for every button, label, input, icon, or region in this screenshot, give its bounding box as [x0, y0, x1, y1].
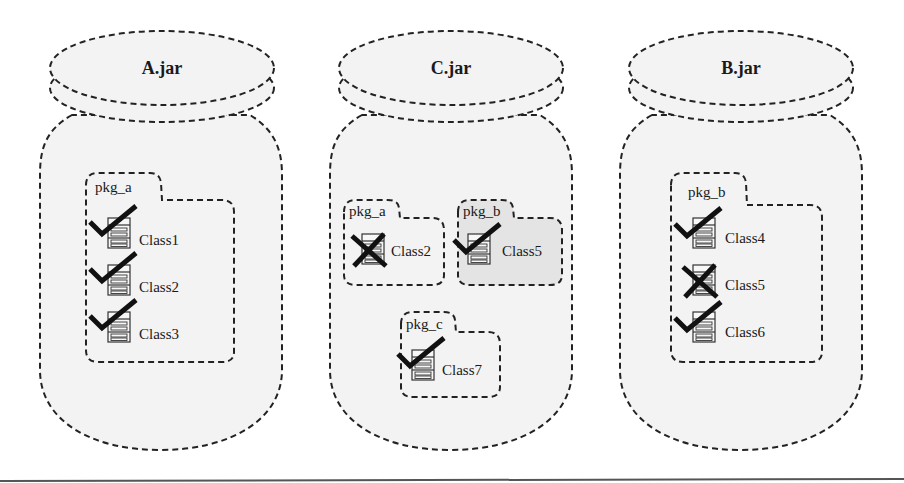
class-label: Class5 — [502, 243, 542, 259]
package-label: pkg_b — [463, 203, 501, 219]
class-label: Class4 — [725, 230, 766, 246]
class-label: Class7 — [442, 362, 483, 378]
jar-label: A.jar — [142, 58, 182, 78]
package-label: pkg_b — [688, 184, 726, 200]
jar-a: A.jar pkg_a Class1 Class2 Class3 — [40, 31, 282, 450]
jar-label: B.jar — [721, 58, 761, 78]
package-label: pkg_a — [95, 179, 132, 195]
bottom-rule — [0, 479, 904, 481]
package-label: pkg_c — [406, 316, 443, 332]
class-label: Class2 — [391, 243, 431, 259]
jar-label: C.jar — [431, 58, 471, 78]
class-label: Class6 — [725, 324, 766, 340]
class-label: Class2 — [139, 279, 179, 295]
class-label: Class5 — [725, 277, 765, 293]
class-label: Class1 — [139, 232, 179, 248]
jar-b: B.jar pkg_b Class4 Class5 Class6 — [620, 31, 862, 450]
package-label: pkg_a — [349, 203, 386, 219]
jar-c: C.jar pkg_a Class2 pkg_b Class5 pkg_c — [330, 31, 572, 450]
class-label: Class3 — [139, 326, 179, 342]
